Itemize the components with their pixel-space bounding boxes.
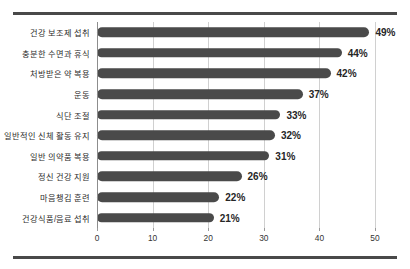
x-tick-label: 10 [148, 233, 157, 243]
category-label: 운동 [74, 88, 90, 100]
category-label: 정신 건강 지원 [38, 170, 90, 182]
x-tick-label: 40 [315, 233, 324, 243]
bar-row: 충분한 수면과 휴식44% [97, 43, 375, 64]
category-label: 일반 의약품 복용 [30, 150, 90, 162]
category-label: 건강 보조제 섭취 [30, 26, 90, 38]
category-label: 일반적인 신체 활동 유지 [4, 129, 90, 141]
bar [97, 89, 303, 99]
category-label: 충분한 수면과 휴식 [22, 47, 90, 59]
bar-row: 마음챙김 훈련22% [97, 187, 375, 208]
bar [97, 131, 275, 141]
x-tick-label: 20 [204, 233, 213, 243]
bar-row: 건강 보조제 섭취49% [97, 22, 375, 43]
x-tick-label: 0 [95, 233, 100, 243]
bar-value-label: 21% [220, 212, 240, 223]
top-divider-rule [13, 12, 397, 15]
bottom-divider-rule [13, 256, 397, 259]
bar [97, 48, 342, 58]
bar-value-label: 44% [348, 47, 368, 58]
bar-row: 건강식품/음료 섭취21% [97, 207, 375, 228]
bar-chart-figure: 건강 보조제 섭취49%충분한 수면과 휴식44%처방받은 약 복용42%운동3… [0, 0, 410, 269]
category-label: 건강식품/음료 섭취 [22, 212, 90, 224]
bar-row: 운동37% [97, 84, 375, 105]
x-tick-mark [264, 228, 265, 231]
x-tick-mark [153, 228, 154, 231]
bar [97, 28, 369, 38]
bar [97, 110, 280, 120]
bar-value-label: 33% [286, 109, 306, 120]
x-tick-mark [319, 228, 320, 231]
bar-value-label: 22% [225, 192, 245, 203]
bar-value-label: 37% [309, 89, 329, 100]
category-label: 마음챙김 훈련 [40, 191, 90, 203]
bar-value-label: 31% [275, 150, 295, 161]
bar-row: 식단 조절33% [97, 104, 375, 125]
plot-area: 건강 보조제 섭취49%충분한 수면과 휴식44%처방받은 약 복용42%운동3… [97, 22, 375, 228]
bar-value-label: 32% [281, 130, 301, 141]
x-tick-mark [208, 228, 209, 231]
bar-row: 처방받은 약 복용42% [97, 63, 375, 84]
x-tick-mark [375, 228, 376, 231]
value-axis-line [97, 22, 98, 228]
bar-value-label: 26% [248, 171, 268, 182]
category-label: 처방받은 약 복용 [30, 67, 90, 79]
bar [97, 151, 269, 161]
bar-value-label: 49% [375, 27, 395, 38]
x-tick-label: 30 [259, 233, 268, 243]
bar [97, 69, 331, 79]
x-tick-mark [97, 228, 98, 231]
bar [97, 192, 219, 202]
category-label: 식단 조절 [56, 109, 90, 121]
bar-row: 일반적인 신체 활동 유지32% [97, 125, 375, 146]
gridline [375, 22, 376, 228]
bar-value-label: 42% [337, 68, 357, 79]
bar [97, 172, 242, 182]
bar-row: 정신 건강 지원26% [97, 166, 375, 187]
bar-row: 일반 의약품 복용31% [97, 146, 375, 167]
x-axis: 01020304050 [97, 228, 375, 248]
x-tick-label: 50 [370, 233, 379, 243]
bar [97, 213, 214, 223]
